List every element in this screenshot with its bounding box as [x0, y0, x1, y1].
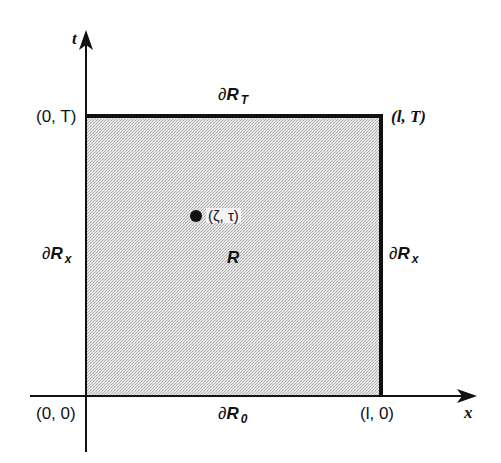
corner-label-bottom-right: (l, 0) [360, 405, 394, 422]
region-label: R [227, 249, 239, 266]
boundary-base: R [50, 244, 62, 263]
boundary-base: R [397, 244, 409, 263]
boundary-label-left: ∂Rx [42, 245, 71, 265]
corner-label-origin: (0, 0) [36, 405, 76, 422]
boundary-base: R [226, 404, 238, 423]
domain-diagram: t x (0, T) (l, T) (0, 0) (l, 0) ∂RT ∂R0 … [0, 0, 501, 463]
boundary-label-top: ∂RT [218, 86, 248, 106]
boundary-base: R [226, 85, 238, 104]
t-axis-label: t [72, 30, 77, 47]
region-label-text: R [227, 248, 239, 267]
diagram-canvas [0, 0, 501, 463]
boundary-subscript: x [412, 252, 419, 266]
point-label: (ζ, τ) [206, 208, 241, 223]
boundary-label-bottom: ∂R0 [218, 405, 247, 425]
boundary-subscript: T [241, 93, 248, 107]
x-axis-label: x [464, 404, 473, 421]
corner-label-top-right: (l, T) [391, 108, 426, 125]
boundary-label-right: ∂Rx [389, 245, 418, 265]
corner-label-top-left: (0, T) [36, 108, 76, 125]
point-marker [190, 210, 202, 222]
boundary-subscript: 0 [241, 412, 248, 426]
boundary-subscript: x [65, 252, 72, 266]
